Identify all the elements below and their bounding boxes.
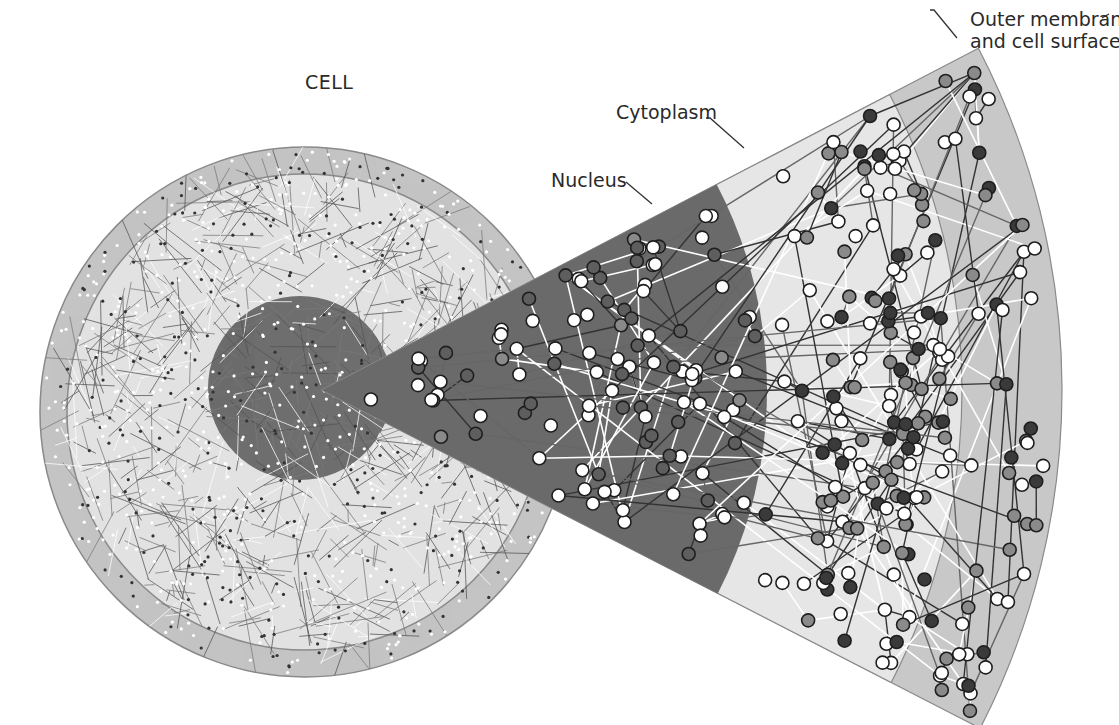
network-node xyxy=(552,489,565,502)
network-node xyxy=(576,464,589,477)
network-node xyxy=(899,376,912,389)
network-node xyxy=(936,415,949,428)
network-node xyxy=(677,396,690,409)
network-node xyxy=(938,431,951,444)
network-node xyxy=(559,269,572,282)
network-node xyxy=(791,415,804,428)
network-node xyxy=(884,326,897,339)
network-node xyxy=(548,357,561,370)
network-node xyxy=(821,315,834,328)
network-node xyxy=(802,614,815,627)
network-node xyxy=(1030,519,1043,532)
network-node xyxy=(842,567,855,580)
network-node xyxy=(892,249,905,262)
network-node xyxy=(827,390,840,403)
cell-network-diagram xyxy=(0,0,1119,725)
network-node xyxy=(835,311,848,324)
network-node xyxy=(878,603,891,616)
network-node xyxy=(1025,292,1038,305)
network-node xyxy=(824,494,837,507)
network-node xyxy=(851,522,864,535)
network-node xyxy=(949,132,962,145)
network-node xyxy=(748,330,761,343)
network-node xyxy=(587,261,600,274)
network-node xyxy=(829,481,842,494)
network-node xyxy=(899,418,912,431)
network-node xyxy=(1015,478,1028,491)
network-node xyxy=(854,458,867,471)
network-node xyxy=(708,248,721,261)
network-node xyxy=(856,434,869,447)
network-node xyxy=(1003,543,1016,556)
network-node xyxy=(693,397,706,410)
network-node xyxy=(364,393,377,406)
network-node xyxy=(778,375,791,388)
network-node xyxy=(828,438,841,451)
network-node xyxy=(412,352,425,365)
network-node xyxy=(929,234,942,247)
network-node xyxy=(838,245,851,258)
network-node xyxy=(533,452,546,465)
network-node xyxy=(434,430,447,443)
network-node xyxy=(776,318,789,331)
network-node xyxy=(896,547,909,560)
network-node xyxy=(973,146,986,159)
network-node xyxy=(816,446,829,459)
network-node xyxy=(977,646,990,659)
network-node xyxy=(874,161,887,174)
network-node xyxy=(861,184,874,197)
network-node xyxy=(611,352,624,365)
network-node xyxy=(434,375,447,388)
network-node xyxy=(667,360,680,373)
network-node xyxy=(696,231,709,244)
network-node xyxy=(649,258,662,271)
network-node xyxy=(425,393,438,406)
network-node xyxy=(474,409,487,422)
network-node xyxy=(663,449,676,462)
network-node xyxy=(827,136,840,149)
network-node xyxy=(411,379,424,392)
network-node xyxy=(1016,218,1029,231)
network-node xyxy=(715,351,728,364)
network-node xyxy=(1018,568,1031,581)
network-node xyxy=(898,507,911,520)
network-node xyxy=(795,384,808,397)
network-node xyxy=(568,314,581,327)
network-node xyxy=(968,66,981,79)
network-node xyxy=(933,372,946,385)
network-node xyxy=(645,429,658,442)
network-node xyxy=(918,573,931,586)
cytoplasm-label: Cytoplasm xyxy=(616,101,717,123)
network-node xyxy=(854,352,867,365)
network-node xyxy=(844,581,857,594)
network-node xyxy=(877,540,890,553)
network-node xyxy=(956,617,969,630)
network-node xyxy=(887,118,900,131)
network-node xyxy=(618,516,631,529)
network-node xyxy=(965,459,978,472)
network-node xyxy=(890,635,903,648)
network-node xyxy=(733,394,746,407)
network-node xyxy=(601,295,614,308)
network-node xyxy=(834,608,847,621)
network-node xyxy=(883,433,896,446)
cell-label: CELL xyxy=(305,71,353,93)
network-node xyxy=(883,399,896,412)
network-node xyxy=(887,263,900,276)
network-node xyxy=(953,648,966,661)
network-node xyxy=(882,292,895,305)
network-node xyxy=(524,397,537,410)
network-node xyxy=(581,308,594,321)
network-node xyxy=(718,511,731,524)
network-node xyxy=(962,679,975,692)
network-node xyxy=(631,339,644,352)
network-node xyxy=(935,683,948,696)
network-node xyxy=(934,312,947,325)
network-node xyxy=(625,312,638,325)
network-node xyxy=(836,457,849,470)
network-node xyxy=(674,325,687,338)
network-node xyxy=(864,110,877,123)
network-node xyxy=(616,504,629,517)
network-node xyxy=(759,574,772,587)
network-node xyxy=(884,306,897,319)
